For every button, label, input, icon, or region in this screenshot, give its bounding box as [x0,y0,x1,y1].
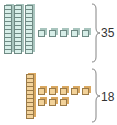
unit-cube [49,88,56,95]
tens-rod [26,75,34,119]
unit-cube [38,30,45,37]
curly-brace-icon [91,3,101,63]
total-label: 35 [101,27,114,39]
unit-cube [60,88,67,95]
unit-cube [60,30,67,37]
unit-cube [38,88,45,95]
total-label: 18 [101,91,114,103]
unit-cube [49,99,56,106]
tens-rod [14,6,22,54]
curly-brace-icon [91,68,101,123]
unit-cube [82,30,89,37]
unit-cube [49,30,56,37]
unit-cube [71,30,78,37]
unit-cube [38,99,45,106]
unit-cube [71,88,78,95]
unit-cube [60,99,67,106]
tens-rod [4,6,12,54]
tens-rod [25,6,33,54]
unit-cube [82,88,89,95]
